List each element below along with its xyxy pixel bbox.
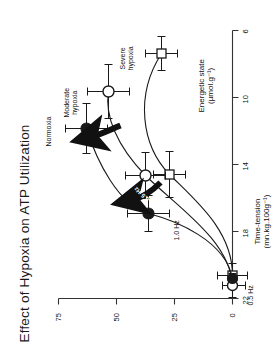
label-freq-05hz: 0.5 Hz — [246, 285, 254, 305]
moderate-marker — [140, 170, 151, 181]
series-severe-hypoxia — [144, 36, 247, 287]
y-axis-label-line2: (mn.kg.100g⁻¹) — [261, 194, 270, 248]
x-axis-label: Energetic state (µmol.g⁻¹) — [196, 59, 214, 112]
label-freq-1hz: 1.0 Hz — [172, 220, 180, 240]
figure-canvas: Effect of Hypoxia on ATP Utilization — [0, 0, 273, 360]
x-axis-label-line1: Energetic state — [196, 59, 205, 112]
x-axis-label-line2: (µmol.g⁻¹) — [205, 67, 214, 103]
label-severe-line1: Severe — [118, 47, 125, 69]
label-moderate-line2: hypoxia — [70, 90, 77, 114]
normoxia-curve — [86, 128, 232, 278]
y-axis-label-line1: Time-tension — [252, 198, 261, 244]
label-severe-hypoxia: Severe hypoxia — [118, 46, 134, 70]
y-tick-75: 75 — [53, 313, 62, 321]
label-moderate-line1: Moderate — [62, 87, 69, 117]
normoxia-marker — [143, 208, 154, 219]
y-tick-25: 25 — [169, 313, 178, 321]
arrow-group — [92, 125, 160, 199]
label-moderate-hypoxia: Moderate hypoxia — [62, 87, 78, 117]
x-tick-14: 14 — [240, 162, 249, 170]
severe-marker — [157, 49, 166, 58]
severe-curve — [144, 53, 232, 275]
x-tick-18: 18 — [240, 229, 249, 237]
y-axis-label: Time-tension (mn.kg.100g⁻¹) — [252, 194, 270, 248]
label-severe-line2: hypoxia — [126, 46, 133, 70]
x-tick-6: 6 — [240, 29, 249, 33]
label-normoxia: Normoxia — [44, 116, 52, 146]
normoxia-marker — [81, 123, 92, 134]
y-tick-50: 50 — [111, 313, 120, 321]
y-tick-0: 0 — [227, 313, 236, 317]
chart-page: Effect of Hypoxia on ATP Utilization — [0, 0, 273, 360]
x-tick-10: 10 — [240, 95, 249, 103]
plot-svg — [0, 0, 273, 360]
moderate-marker — [103, 86, 114, 97]
